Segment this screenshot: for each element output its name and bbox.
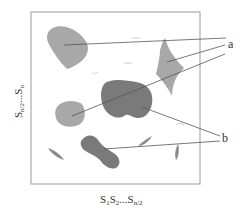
y-label-sn: ...S bbox=[12, 89, 24, 103]
label-a: a bbox=[228, 37, 234, 51]
y-label-subn: n bbox=[18, 85, 26, 89]
x-label-sn: ...S bbox=[119, 193, 133, 205]
region-b-center bbox=[101, 80, 152, 118]
diagram-canvas: a b S1S2...Sn/2 Sn/2...Sn bbox=[0, 0, 246, 212]
x-label-subn2: n/2 bbox=[134, 199, 143, 207]
label-b: b bbox=[222, 131, 228, 145]
x-axis-label: S1S2...Sn/2 bbox=[100, 193, 143, 207]
region-a-left-middle bbox=[55, 101, 85, 127]
y-axis-label: Sn/2...Sn bbox=[12, 85, 26, 118]
